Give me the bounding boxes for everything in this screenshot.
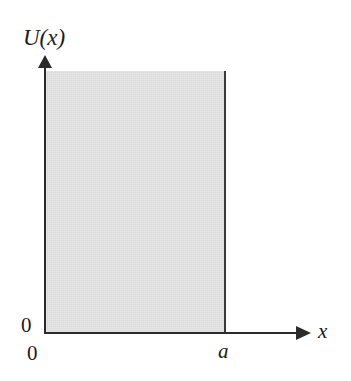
shaded-potential-region — [45, 71, 225, 333]
y-axis-arrowhead-icon — [38, 55, 52, 68]
potential-wall-at-a — [224, 71, 226, 334]
potential-well-figure: U(x) x a 0 0 — [0, 0, 351, 381]
origin-label-y: 0 — [21, 315, 32, 336]
x-axis-arrowhead-icon — [296, 326, 311, 340]
y-axis-label: U(x) — [23, 26, 65, 49]
y-axis-line — [44, 64, 46, 334]
x-tick-label-a: a — [218, 341, 229, 362]
x-axis-line — [44, 332, 302, 334]
x-axis-label: x — [318, 321, 327, 342]
origin-label-x: 0 — [27, 343, 38, 364]
